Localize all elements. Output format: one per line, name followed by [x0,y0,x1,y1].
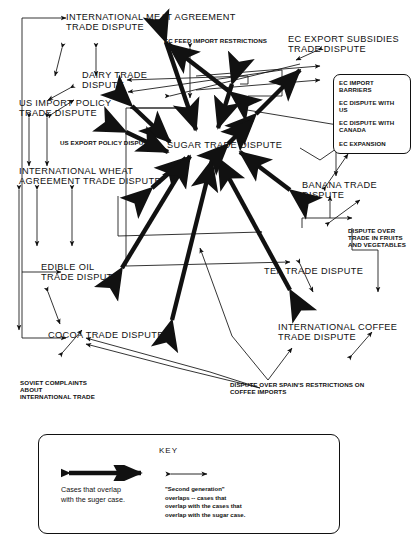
node-sugar-trade-dispute: SUGAR TRADE DISPUTE [167,140,282,150]
key-thick-arrow-sample [61,465,149,481]
key-thick-label: Cases that overlap with the suger case. [61,485,125,504]
node-ec-export-subsidies: EC EXPORT SUBSIDIES TRADE DISPUTE [288,34,399,55]
ec-box-item-dispute-with-canada: EC DISPUTE WITH CANADA [339,119,394,133]
node-tea-trade-dispute: TEA TRADE DISPUTE [264,266,363,276]
key-thin-label: "Second generation" overlaps -- cases th… [165,485,245,519]
node-international-wheat-agreement: INTERNATIONAL WHEAT AGREEMENT TRADE DISP… [19,166,161,187]
ec-box-item-import-barriers: EC IMPORT BARRIERS [339,79,374,93]
key-legend-box: KEY Cases that overlap with the suger ca… [38,434,340,534]
node-international-coffee: INTERNATIONAL COFFEE TRADE DISPUTE [278,322,397,343]
node-banana-trade: BANANA TRADE DISPUTE [302,180,377,201]
node-international-meat-agreement: INTERNATIONAL MEAT AGREEMENT TRADE DISPU… [66,12,236,33]
node-dairy-trade: DAIRY TRADE DISPUTE [82,70,147,91]
node-spain-coffee-restrictions: DISPUTE OVER SPAIN'S RESTRICTIONS ON COF… [230,382,364,396]
node-us-export-policy: US EXPORT POLICY DISPUTE [60,140,151,147]
thin-edge-group [19,48,372,355]
ec-related-disputes-box: EC IMPORT BARRIERS EC DISPUTE WITH US EC… [333,74,411,154]
node-edible-oil: EDIBLE OIL TRADE DISPUTE [41,262,119,283]
trade-dispute-diagram: INTERNATIONAL MEAT AGREEMENT TRADE DISPU… [0,0,415,548]
ec-box-item-ec-expansion: EC EXPANSION [339,140,386,147]
ec-box-item-dispute-with-us: EC DISPUTE WITH US [339,99,394,113]
node-us-import-policy: US IMPORT POLICY TRADE DISPUTE [19,98,112,119]
node-cocoa-trade-dispute: COCOA TRADE DISPUTE [48,330,164,340]
node-ec-feed-import-restrictions: EC FEED IMPORT RESTRICTIONS [164,38,267,45]
node-fruits-and-vegetables: DISPUTE OVER TRADE IN FRUITS AND VEGETAB… [348,228,406,249]
key-thin-arrow-sample [165,467,213,481]
key-title: KEY [159,446,178,455]
node-soviet-complaints: SOVIET COMPLAINTS ABOUT INTERNATIONAL TR… [20,380,95,401]
